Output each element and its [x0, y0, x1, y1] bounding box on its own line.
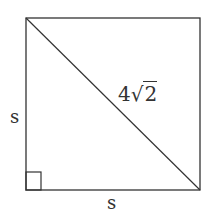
left-side-label: s: [10, 106, 19, 127]
bottom-side-label: s: [107, 192, 116, 213]
sqrt-icon: √: [131, 82, 144, 106]
diagonal-label: 4√2: [118, 82, 157, 106]
diagonal: [26, 18, 200, 190]
diagonal-radicand: 2: [143, 81, 157, 106]
square-diagram: [0, 0, 208, 221]
right-angle-marker: [26, 172, 41, 190]
diagonal-coefficient: 4: [118, 82, 131, 106]
